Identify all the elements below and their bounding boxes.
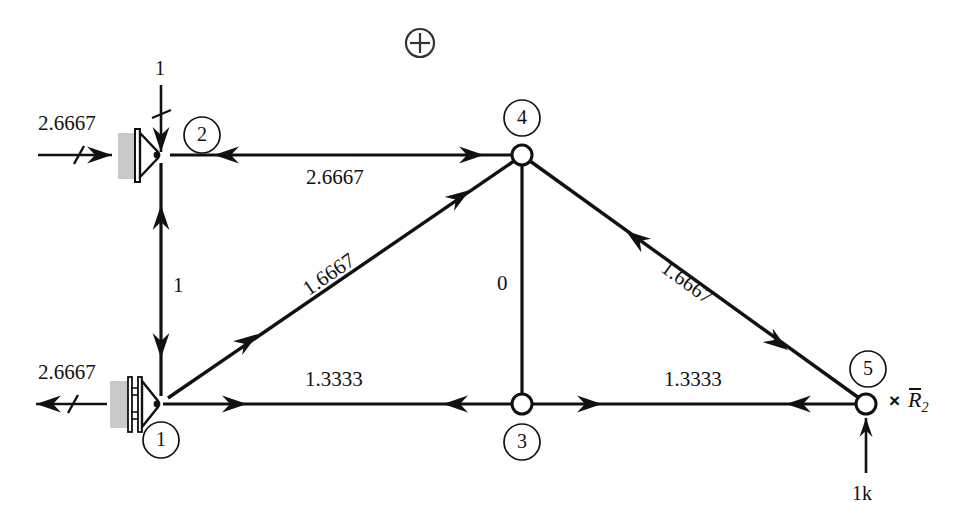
node-label-3: 3 (512, 431, 532, 451)
reaction-r2-annotation: ×R2 (889, 389, 929, 415)
force-label-left-vertical-1-2: 1 (173, 275, 184, 296)
reaction-symbol-letter: R (908, 387, 921, 412)
load-label-node-2: 1 (155, 58, 165, 78)
joint-circle-node-5 (856, 394, 876, 414)
force-label-bottom-chord-3-5: 1.3333 (664, 369, 722, 390)
node-label-1: 1 (151, 429, 171, 449)
overbar (909, 388, 921, 390)
force-label-top-chord-2-4: 2.6667 (306, 167, 364, 188)
joint-circle-node-4 (512, 145, 532, 165)
reaction-subscript: 2 (922, 400, 929, 415)
truss-diagram-canvas: 2 1 3 4 5 2.6667 1 1.6667 0 1.6667 1.333… (0, 0, 972, 519)
reaction-symbol-r: R (908, 389, 921, 411)
arrow-member-4-5-at-node-5 (726, 305, 788, 350)
joint-circle-node-3 (512, 394, 532, 414)
truss-vector-layer (0, 0, 972, 519)
arrow-member-1-4-lower (200, 334, 258, 374)
support-node-1-hatch (110, 381, 128, 428)
reaction-label-node-2: 2.6667 (38, 113, 96, 134)
support-node-2-pin (154, 152, 161, 159)
load-label-node-5: 1k (852, 483, 872, 503)
node-label-4: 4 (512, 107, 532, 127)
force-label-bottom-chord-1-3: 1.3333 (305, 369, 363, 390)
node-label-5: 5 (858, 358, 878, 378)
support-node-1-pin (154, 401, 161, 408)
reaction-label-node-1: 2.6667 (38, 362, 96, 383)
multiply-sign: × (889, 390, 900, 411)
force-label-center-vertical-3-4: 0 (497, 273, 508, 294)
support-node-2 (118, 129, 160, 182)
circled-plus-icon (406, 29, 434, 57)
node-label-2: 2 (192, 124, 212, 144)
support-node-1-wall-plate (128, 377, 132, 432)
member-lines (161, 155, 859, 404)
support-node-2-hatch (118, 133, 135, 179)
